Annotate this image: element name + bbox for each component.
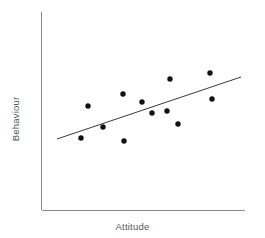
data-point [149, 110, 154, 115]
data-points-group [78, 70, 214, 143]
data-point [100, 124, 105, 129]
data-point [175, 121, 180, 126]
data-point [139, 99, 144, 104]
data-point [207, 70, 212, 75]
regression-trend-line [57, 77, 241, 139]
data-point [78, 135, 83, 140]
data-point [120, 91, 125, 96]
data-point [121, 138, 126, 143]
data-point [85, 103, 90, 108]
x-axis-label: Attitude [0, 221, 265, 232]
plot-canvas [0, 0, 265, 238]
data-point [167, 76, 172, 81]
y-axis-label: Behaviour [10, 97, 21, 142]
data-point [164, 108, 169, 113]
y-axis-label-container: Behaviour [0, 0, 30, 238]
data-point [209, 96, 214, 101]
scatter-plot-figure: Behaviour Attitude [0, 0, 265, 238]
